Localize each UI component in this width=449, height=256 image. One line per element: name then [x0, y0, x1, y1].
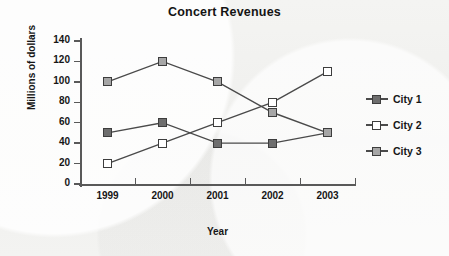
x-tick-label-2000: 2000: [140, 190, 186, 201]
y-tick-mark-20: [74, 163, 80, 164]
legend-label-city-3: City 3: [393, 145, 422, 157]
data-point-city-1-2000: [158, 118, 167, 127]
legend-marker-city-1-icon: [366, 93, 388, 105]
y-tick-mark-140: [74, 40, 80, 41]
data-point-city-1-2001: [213, 139, 222, 148]
y-tick-label-20: 20: [38, 157, 70, 168]
data-point-city-2-1999: [103, 159, 112, 168]
chart-legend: City 1 City 2 City 3: [366, 86, 446, 164]
y-tick-label-40: 40: [38, 136, 70, 147]
legend-label-city-2: City 2: [393, 119, 422, 131]
y-tick-mark-100: [74, 81, 80, 82]
y-tick-mark-80: [74, 102, 80, 103]
legend-item-city-1[interactable]: City 1: [366, 86, 446, 112]
legend-label-city-1: City 1: [393, 93, 422, 105]
legend-marker-city-3-icon: [366, 145, 388, 157]
data-point-city-3-2003: [323, 128, 332, 137]
data-point-city-2-2001: [213, 118, 222, 127]
y-tick-label-60: 60: [38, 116, 70, 127]
x-tick-label-2002: 2002: [250, 190, 296, 201]
chart-title: Concert Revenues: [0, 5, 449, 19]
y-tick-label-120: 120: [38, 54, 70, 65]
data-point-city-3-2002: [268, 108, 277, 117]
x-tick-mark-4: [300, 178, 301, 185]
data-point-city-2-2000: [158, 139, 167, 148]
legend-marker-city-2-icon: [366, 119, 388, 131]
x-tick-mark-1: [135, 178, 136, 185]
y-axis-title: Millions of dollars: [26, 3, 37, 133]
x-tick-label-1999: 1999: [85, 190, 131, 201]
data-point-city-1-2002: [268, 139, 277, 148]
x-tick-mark-5: [355, 178, 356, 185]
y-tick-label-140: 140: [38, 34, 70, 45]
x-tick-mark-0: [80, 178, 81, 185]
y-tick-mark-40: [74, 142, 80, 143]
x-tick-label-2001: 2001: [195, 190, 241, 201]
y-axis-line: [80, 38, 82, 187]
data-point-city-3-2000: [158, 57, 167, 66]
x-axis-line: [79, 184, 356, 186]
y-tick-mark-60: [74, 122, 80, 123]
x-tick-label-2003: 2003: [305, 190, 351, 201]
data-point-city-1-1999: [103, 128, 112, 137]
y-tick-label-80: 80: [38, 95, 70, 106]
y-tick-label-100: 100: [38, 75, 70, 86]
data-point-city-3-2001: [213, 77, 222, 86]
x-tick-mark-2: [190, 178, 191, 185]
x-tick-mark-3: [245, 178, 246, 185]
data-point-city-3-1999: [103, 77, 112, 86]
data-point-city-2-2002: [268, 98, 277, 107]
legend-item-city-3[interactable]: City 3: [366, 138, 446, 164]
y-tick-label-0: 0: [38, 177, 70, 188]
legend-item-city-2[interactable]: City 2: [366, 112, 446, 138]
data-point-city-2-2003: [323, 67, 332, 76]
concert-revenues-line-chart: Concert Revenues Millions of dollars Yea…: [0, 0, 449, 256]
x-axis-title: Year: [80, 226, 355, 237]
y-tick-mark-120: [74, 61, 80, 62]
